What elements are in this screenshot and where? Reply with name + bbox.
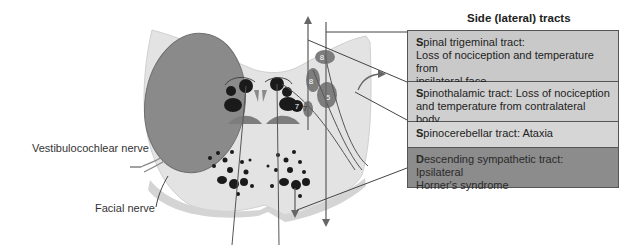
panel-title: Side (lateral) tracts <box>467 12 571 24</box>
nucleus-label-8-lower: 8 <box>309 77 314 86</box>
tract-text-line2: Loss of nociception and temperature from <box>416 49 594 74</box>
tract-box-spinothalamic: Spinothalamic tract: Loss of nociception… <box>407 82 619 122</box>
tract-box-spinocerebellar: Spinocerebellar tract: Ataxia <box>407 122 619 148</box>
tract-text: pinocerebellar tract: Ataxia <box>423 127 553 139</box>
tract-text: pinothalamic tract: Loss of nociception <box>423 87 610 99</box>
tract-text-line2: Horner's syndrome <box>416 179 509 191</box>
vestibulocochlear-nerve-label: Vestibulocochlear nerve <box>32 142 149 154</box>
nucleus-label-8-upper: 8 <box>320 53 325 62</box>
facial-nerve-label: Facial nerve <box>95 202 155 214</box>
nucleus-label-7: 7 <box>295 102 300 111</box>
tract-box-spinal-trigeminal: Spinal trigeminal tract: Loss of nocicep… <box>407 30 619 82</box>
tract-box-descending-sympathetic: Descending sympathetic tract: Ipsilatera… <box>407 148 619 188</box>
tract-initial: D <box>416 153 424 165</box>
tract-text: escending sympathetic tract: Ipsilateral <box>416 153 563 178</box>
tract-text: pinal trigeminal tract: <box>423 36 525 48</box>
